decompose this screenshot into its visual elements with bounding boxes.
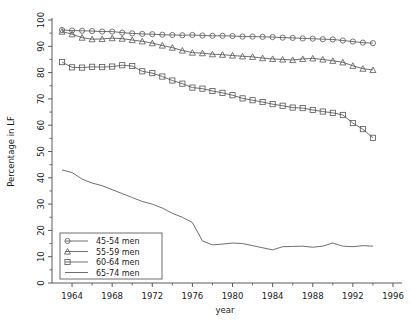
legend-label-3: 60-64 men <box>96 258 140 267</box>
x-tick-label: 1968 <box>101 291 123 301</box>
x-tick-label: 1980 <box>222 291 244 301</box>
y-tick-label: 70 <box>36 93 46 104</box>
x-tick-label: 1984 <box>262 291 284 301</box>
y-tick-label: 20 <box>36 225 46 236</box>
x-axis-label: year <box>216 305 235 315</box>
series-line-60-64-men <box>62 62 373 138</box>
chart-canvas: 0102030405060708090100196419681972197619… <box>0 0 411 330</box>
figure-caption <box>6 318 404 326</box>
y-axis-label: Percentage in LF <box>6 116 16 187</box>
y-tick-label: 80 <box>36 67 46 78</box>
y-tick-label: 50 <box>36 146 46 157</box>
x-tick-label: 1988 <box>302 291 324 301</box>
y-tick-label: 60 <box>36 120 46 131</box>
series-line-55-59-men <box>62 32 373 70</box>
legend-label-4: 65-74 men <box>96 269 140 278</box>
x-tick-label: 1992 <box>342 291 364 301</box>
y-tick-label: 0 <box>36 280 46 285</box>
y-tick-label: 40 <box>36 172 46 183</box>
legend-label-1: 45-54 men <box>96 237 140 246</box>
y-tick-label: 30 <box>36 199 46 210</box>
y-tick-label: 10 <box>36 251 46 262</box>
series-line-45-54-men <box>62 30 373 43</box>
x-tick-label: 1972 <box>141 291 163 301</box>
legend-label-2: 55-59 men <box>96 248 140 257</box>
y-tick-label: 100 <box>36 12 46 28</box>
y-tick-label: 90 <box>36 41 46 52</box>
x-tick-label: 1976 <box>182 291 204 301</box>
figure: 0102030405060708090100196419681972197619… <box>0 0 411 330</box>
x-tick-label: 1996 <box>382 291 404 301</box>
x-tick-label: 1964 <box>61 291 83 301</box>
